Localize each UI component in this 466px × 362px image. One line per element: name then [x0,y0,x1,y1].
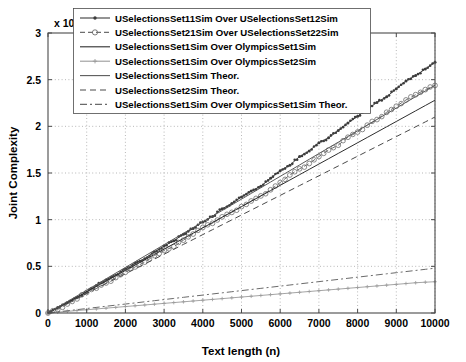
y-tick-label: 2.5 [26,74,41,86]
data-point-marker [424,67,427,70]
data-point-marker [269,177,272,180]
data-point-marker [247,191,250,194]
legend-label: USelectionsSet21Sim Over USelectionsSet2… [115,27,338,38]
data-point-marker [250,189,253,192]
data-point-marker [313,145,316,148]
data-point-marker [349,120,352,123]
joint-complexity-line-chart: 0100020003000400050006000700080009000100… [0,0,466,362]
data-point-marker [426,66,429,69]
chart-figure: 0100020003000400050006000700080009000100… [0,0,466,362]
legend-item-1[interactable]: USelectionsSet21Sim Over USelectionsSet2… [80,27,338,38]
data-point-marker [293,159,296,162]
data-point-marker [264,180,267,183]
legend-label: USelectionsSet1Sim Over OlympicsSet1Sim … [115,99,347,110]
x-tick-label: 2000 [114,317,138,329]
data-point-marker [286,165,289,168]
data-point-marker [417,73,420,76]
data-point-marker [373,102,376,105]
chart-legend[interactable]: USelectionsSet11Sim Over USelectionsSet1… [74,9,371,114]
data-point-marker [330,134,333,137]
legend-label: USelectionsSet1Sim Theor. [115,70,239,81]
data-point-marker [431,62,434,65]
data-point-marker [279,169,282,172]
data-point-marker [402,82,405,85]
y-tick-label: 1.5 [26,167,41,179]
data-point-marker [272,175,275,178]
data-point-marker [337,129,340,132]
x-tick-label: 0 [45,317,51,329]
data-point-marker [375,101,378,104]
y-axis-title: Joint Complexity [7,126,19,219]
data-point-marker [243,194,246,197]
x-tick-label: 8000 [346,317,370,329]
data-point-marker [429,64,432,67]
x-tick-label: 3000 [152,317,176,329]
data-point-marker [245,193,248,196]
y-exponent-base: x 10 [54,17,75,29]
data-point-marker [322,140,325,143]
x-tick-label: 7000 [307,317,331,329]
data-point-marker [238,196,241,199]
data-point-marker [296,159,299,162]
y-tick-label: 3 [35,27,41,39]
data-point-marker [346,121,349,124]
data-point-marker [356,115,359,118]
data-point-marker [354,116,357,119]
data-point-marker [235,199,238,202]
data-point-marker [419,72,422,75]
x-axis-title: Text length (n) [202,345,281,357]
data-point-marker [351,118,354,121]
x-tick-label: 6000 [269,317,293,329]
data-point-marker [395,87,398,90]
data-point-marker [327,136,330,139]
data-point-marker [252,189,255,192]
data-point-marker [414,74,417,77]
legend-item-3[interactable]: USelectionsSet1Sim Over OlympicsSet2Sim [80,56,316,67]
x-tick-label: 10000 [420,317,449,329]
data-point-marker [385,95,388,98]
data-point-marker [281,168,284,171]
x-tick-label: 4000 [191,317,215,329]
data-point-marker [301,155,304,158]
data-point-marker [410,78,413,81]
x-tick-label: 5000 [230,317,254,329]
data-point-marker [339,127,342,130]
legend-item-6[interactable]: USelectionsSet1Sim Over OlympicsSet1Sim … [80,99,347,110]
data-point-marker [291,163,294,166]
x-tick-label: 9000 [385,317,409,329]
data-point-marker [320,140,323,143]
data-point-marker [407,78,410,81]
data-point-marker [422,68,425,71]
data-point-marker [383,97,386,100]
y-tick-label: 0 [35,307,41,319]
legend-marker-dot [93,16,96,19]
data-point-marker [390,91,393,94]
data-point-marker [218,208,221,211]
data-point-marker [288,164,291,167]
data-point-marker [393,89,396,92]
data-point-marker [315,144,318,147]
data-point-marker [317,141,320,144]
data-point-marker [298,155,301,158]
data-point-marker [276,172,279,175]
data-point-marker [284,167,287,170]
y-tick-label: 2 [35,120,41,132]
legend-item-2[interactable]: USelectionsSet1Sim Over OlympicsSet1Sim [80,41,316,52]
data-point-marker [388,94,391,97]
data-point-marker [332,132,335,135]
data-point-marker [267,179,270,182]
data-point-marker [310,148,313,151]
data-point-marker [335,131,338,134]
legend-label: USelectionsSet11Sim Over USelectionsSet1… [115,13,338,24]
data-point-marker [412,75,415,78]
data-point-marker [397,86,400,89]
y-tick-label: 1 [35,214,41,226]
data-point-marker [404,79,407,82]
data-point-marker [325,139,328,142]
legend-label: USelectionsSet1Sim Over OlympicsSet1Sim [115,41,316,52]
legend-item-0[interactable]: USelectionsSet11Sim Over USelectionsSet1… [80,13,338,24]
data-point-marker [344,124,347,127]
data-point-marker [274,173,277,176]
x-tick-label: 1000 [75,317,99,329]
data-point-marker [400,83,403,86]
